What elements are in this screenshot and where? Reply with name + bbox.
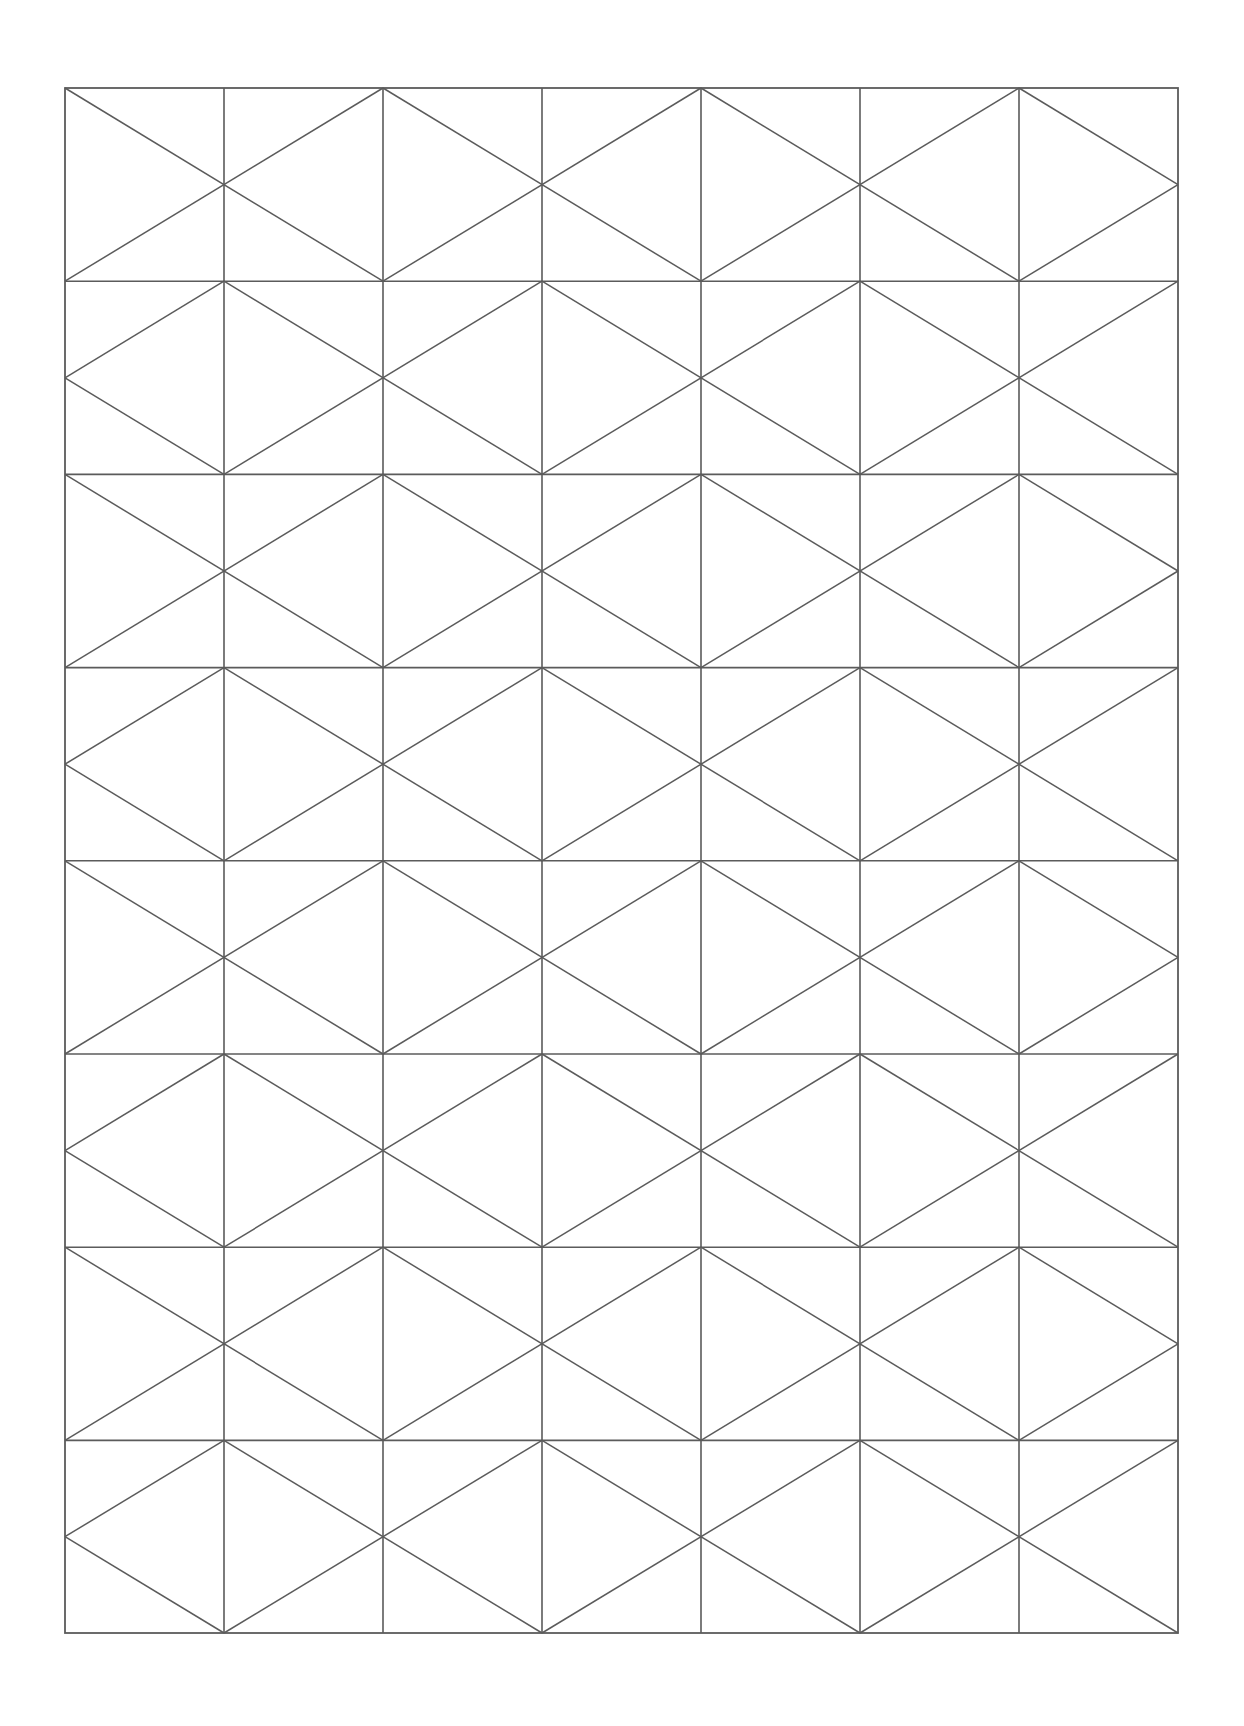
diagonal-down-1-0 <box>65 378 224 475</box>
grid-lines-layer <box>65 88 1178 1633</box>
diagonal-down-5-0 <box>65 1151 224 1248</box>
diagonal-up-1-0 <box>65 281 224 378</box>
diagonal-up-0-3 <box>1019 185 1178 282</box>
diagonal-up-6-3 <box>1019 1344 1178 1441</box>
diagonal-down-2-3 <box>1019 474 1178 571</box>
diagonal-down-0-3 <box>1019 88 1178 185</box>
diagonal-down-7-0 <box>65 1537 224 1633</box>
pattern-page <box>0 0 1244 1726</box>
diagonal-down-3-0 <box>65 764 224 861</box>
diagonal-up-4-3 <box>1019 957 1178 1054</box>
diagonal-down-4-3 <box>1019 861 1178 958</box>
lattice-pattern-svg <box>0 0 1244 1726</box>
diagonal-up-7-0 <box>65 1440 224 1536</box>
diagonal-up-5-0 <box>65 1054 224 1151</box>
diagonal-down-6-3 <box>1019 1247 1178 1344</box>
diagonal-up-3-0 <box>65 668 224 765</box>
diagonal-up-2-3 <box>1019 571 1178 668</box>
